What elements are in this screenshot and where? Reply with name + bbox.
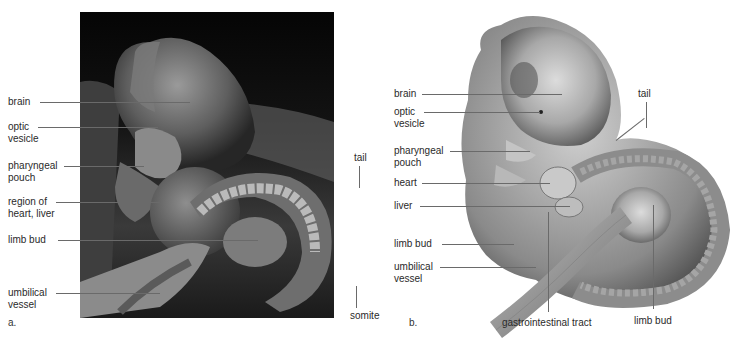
label-heart-liver-line1: region of (8, 196, 47, 208)
label-brain-b: brain (394, 88, 416, 100)
label-umbilical-vessel-b-line2: vessel (394, 273, 422, 285)
label-liver-b: liver (394, 200, 412, 212)
label-umbilical-vessel-b-line1: umbilical (394, 261, 433, 273)
leader-line-somite (356, 286, 357, 308)
leader-line-umbilical-vessel (56, 293, 160, 294)
leader-line-brain (40, 102, 190, 103)
leader-line-heart-b (422, 183, 550, 184)
embryo-illustration (376, 0, 752, 341)
label-tail-b: tail (638, 88, 651, 100)
leader-line-tail-b-vertical (646, 102, 647, 128)
panel-b-illustration: brain optic vesicle pharyngeal pouch hea… (376, 0, 752, 341)
leader-line-limb-bud-b-upper (442, 244, 514, 245)
label-pharyngeal-pouch-line2: pouch (8, 172, 35, 184)
leader-line-gi-tract (548, 212, 549, 312)
panel-letter-b: b. (409, 317, 417, 328)
leader-line-brain-b (422, 94, 562, 95)
leader-line-limb-bud-b-lower (653, 205, 654, 309)
leader-line-optic-vesicle-b (424, 112, 540, 113)
label-heart-liver-line2: heart, liver (8, 208, 55, 220)
label-limb-bud: limb bud (8, 234, 46, 246)
leader-line-optic-vesicle (38, 127, 158, 128)
label-limb-bud-b-lower: limb bud (634, 315, 672, 327)
embryo-micrograph (80, 12, 334, 318)
leader-line-liver-b (420, 206, 570, 207)
label-optic-vesicle-line2: vesicle (8, 133, 39, 145)
label-umbilical-vessel-line1: umbilical (8, 287, 47, 299)
label-limb-bud-b-upper: limb bud (394, 238, 432, 250)
embryo-micrograph-shapes (80, 12, 334, 318)
leader-line-pharyngeal-pouch (64, 166, 144, 167)
label-gastrointestinal-tract: gastrointestinal tract (502, 317, 592, 329)
label-pharyngeal-pouch-b-line1: pharyngeal (394, 145, 443, 157)
leader-line-umbilical-vessel-b (440, 267, 536, 268)
panel-a-micrograph: brain optic vesicle pharyngeal pouch reg… (0, 0, 376, 341)
label-heart-b: heart (394, 177, 417, 189)
leader-line-limb-bud (58, 240, 258, 241)
panel-letter-a: a. (8, 317, 16, 328)
leader-line-pharyngeal-pouch-b (450, 151, 530, 152)
leader-line-heart-liver (56, 202, 160, 203)
label-optic-vesicle-b-line2: vesicle (394, 118, 425, 130)
label-tail: tail (354, 152, 367, 164)
label-pharyngeal-pouch-line1: pharyngeal (8, 160, 57, 172)
label-optic-vesicle-line1: optic (8, 121, 29, 133)
label-umbilical-vessel-line2: vessel (8, 299, 36, 311)
label-optic-vesicle-b-line1: optic (394, 106, 415, 118)
leader-line-tail (359, 166, 360, 188)
label-brain: brain (8, 96, 30, 108)
label-pharyngeal-pouch-b-line2: pouch (394, 157, 421, 169)
